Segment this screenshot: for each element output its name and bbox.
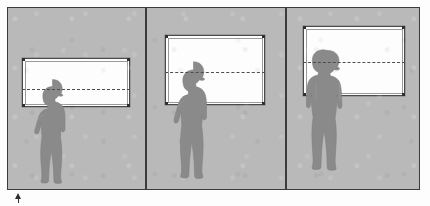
window-corner-tick-icon [127,58,130,61]
window-corner-tick-icon [165,102,168,105]
panel-bay-1 [8,8,145,189]
panel-bay-2 [147,8,285,189]
window-corner-tick-icon [402,93,405,96]
figure-standing-person-bay-1 [32,78,72,184]
drawing-frame [7,7,420,190]
window-corner-tick-icon [165,35,168,38]
diagram-canvas [0,0,430,206]
window-corner-tick-icon [22,104,25,107]
eye-level-sightline-bay-1 [22,89,130,90]
scale-arrow-marker-stem-icon [18,199,19,203]
window-corner-tick-icon [22,58,25,61]
window-corner-tick-icon [262,35,265,38]
window-corner-tick-icon [303,26,306,29]
figure-standing-person-bay-2 [172,60,214,184]
figure-standing-person-bay-3 [303,49,349,184]
eye-level-sightline-bay-2 [165,72,265,73]
eye-level-sightline-bay-3 [303,62,405,63]
window-corner-tick-icon [402,26,405,29]
window-corner-tick-icon [127,104,130,107]
panel-bay-3 [287,8,420,189]
window-corner-tick-icon [262,102,265,105]
